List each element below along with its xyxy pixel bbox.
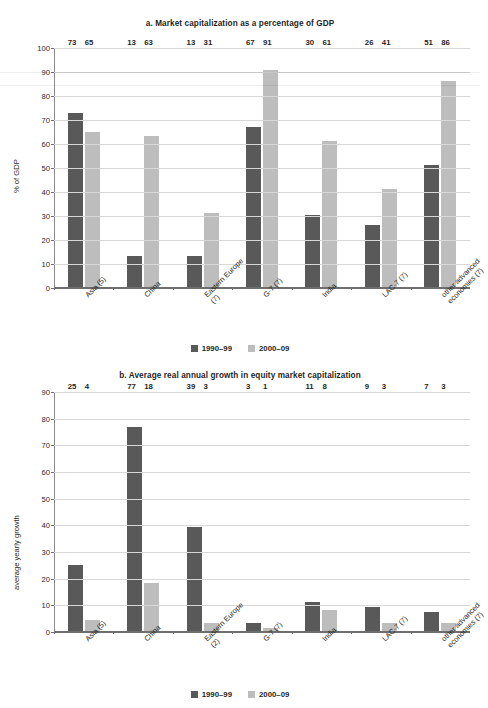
bar[interactable]: 26: [365, 225, 380, 287]
x-label-cell: G-7 (7): [232, 634, 291, 694]
legend-swatch-icon-1990-99: [191, 345, 198, 352]
bar[interactable]: 30: [305, 215, 320, 287]
gridline: [54, 240, 470, 241]
legend-item-1990-99: 1990–99: [191, 344, 232, 353]
bar-value-label: 61: [322, 39, 331, 47]
gridline: [54, 445, 470, 446]
bar-value-label: 13: [187, 39, 196, 47]
bar[interactable]: 61: [322, 141, 337, 287]
y-tick-label: 0: [46, 284, 50, 293]
y-tick-mark: [51, 499, 54, 500]
y-tick-label: 10: [42, 260, 50, 269]
gridline: [54, 96, 470, 97]
x-label-cell: other advancedeconomies (7): [411, 634, 470, 694]
y-tick-mark: [51, 288, 54, 289]
y-tick-mark: [51, 168, 54, 169]
bar-group: 254: [54, 392, 113, 631]
y-tick-label: 0: [46, 628, 50, 637]
y-tick-mark: [51, 264, 54, 265]
bar[interactable]: 3: [246, 623, 261, 631]
x-label-cell: other advancedeconomies (7): [411, 290, 470, 350]
bar-value-label: 73: [68, 39, 77, 47]
chart-b-legend: 1990–99 2000–09: [0, 690, 480, 699]
bar[interactable]: 77: [127, 427, 142, 631]
chart-a-legend: 1990–99 2000–09: [0, 344, 480, 353]
bar[interactable]: 9: [365, 607, 380, 631]
chart-panel-a: a. Market capitalization as a percentage…: [0, 8, 480, 352]
bar-column[interactable]: 4: [85, 392, 100, 631]
bar-value-label: 3: [246, 383, 250, 391]
bar[interactable]: 13: [127, 256, 142, 287]
bar-column[interactable]: 3: [441, 392, 456, 631]
y-tick-label: 60: [42, 467, 50, 476]
chart-a-y-axis-label: % of GDP: [12, 159, 21, 193]
chart-b-plot-area: 2547718393311189373 0102030405060708090: [54, 392, 470, 632]
bar-group: 73: [411, 392, 470, 631]
bar-column[interactable]: 3: [204, 392, 219, 631]
y-tick-mark: [51, 96, 54, 97]
gridline: [54, 120, 470, 121]
bar[interactable]: 86: [441, 81, 456, 287]
bar-column[interactable]: 18: [144, 392, 159, 631]
bar-value-label: 11: [305, 383, 313, 391]
chart-a-title: a. Market capitalization as a percentage…: [0, 19, 480, 28]
bar-column[interactable]: 9: [365, 392, 380, 631]
bar-value-label: 39: [187, 383, 196, 391]
x-label-cell: G-7 (7): [232, 290, 291, 350]
bar-column[interactable]: 1: [263, 392, 278, 631]
gridline: [54, 579, 470, 580]
y-tick-label: 90: [42, 68, 50, 77]
bar-column[interactable]: 3: [382, 392, 397, 631]
bar-column[interactable]: 7: [424, 392, 439, 631]
y-tick-mark: [51, 632, 54, 633]
gridline: [54, 419, 470, 420]
bar-column[interactable]: 8: [322, 392, 337, 631]
bar-value-label: 67: [246, 39, 255, 47]
gridline: [54, 288, 470, 289]
bar[interactable]: 91: [263, 70, 278, 287]
y-tick-label: 80: [42, 414, 50, 423]
bar[interactable]: 7: [424, 612, 439, 631]
bar-value-label: 41: [382, 39, 391, 47]
x-label-cell: Asia (5): [54, 634, 113, 694]
bar[interactable]: 31: [204, 213, 219, 287]
y-tick-mark: [51, 240, 54, 241]
gridline: [54, 192, 470, 193]
bar[interactable]: 51: [424, 165, 439, 287]
bar-group: 7718: [113, 392, 172, 631]
bar-value-label: 30: [305, 39, 314, 47]
x-label-cell: LAC-7 (7): [351, 634, 410, 694]
bar-column[interactable]: 39: [187, 392, 202, 631]
gridline: [54, 605, 470, 606]
bar-value-label: 13: [127, 39, 136, 47]
y-tick-mark: [51, 144, 54, 145]
bar[interactable]: 13: [187, 256, 202, 287]
bar-column[interactable]: 11: [305, 392, 320, 631]
legend-item-2000-09: 2000–09: [248, 344, 289, 353]
x-label-cell: LAC-7 (7): [351, 290, 410, 350]
y-tick-label: 40: [42, 521, 50, 530]
y-tick-mark: [51, 419, 54, 420]
bar[interactable]: 67: [246, 127, 261, 287]
bar-column[interactable]: 25: [68, 392, 83, 631]
chart-a-plot-area: 7365136313316791306126415186 01020304050…: [54, 48, 470, 288]
bar[interactable]: 73: [68, 113, 83, 287]
bar-value-label: 3: [382, 383, 386, 391]
bar-value-label: 26: [365, 39, 374, 47]
bar-value-label: 51: [424, 39, 433, 47]
bar-group: 118: [292, 392, 351, 631]
y-tick-label: 30: [42, 547, 50, 556]
y-tick-label: 60: [42, 140, 50, 149]
y-tick-mark: [51, 192, 54, 193]
bar[interactable]: 25: [68, 565, 83, 631]
bar[interactable]: 41: [382, 189, 397, 287]
bar-value-label: 9: [365, 383, 369, 391]
bar-column[interactable]: 77: [127, 392, 142, 631]
legend-label-2000-09-b: 2000–09: [259, 690, 289, 699]
bar-column[interactable]: 3: [246, 392, 261, 631]
bar-group: 31: [232, 392, 291, 631]
gridline: [54, 499, 470, 500]
y-tick-label: 70: [42, 116, 50, 125]
x-label-cell: Asia (5): [54, 290, 113, 350]
